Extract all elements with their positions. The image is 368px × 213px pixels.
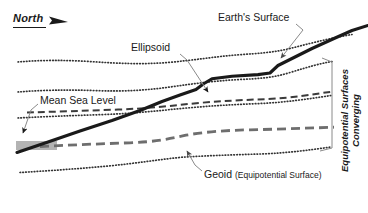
ellipsoid-label: Ellipsoid xyxy=(131,42,170,53)
earths-surface-label: Earth's Surface xyxy=(218,12,289,23)
geoid-label: Geoid xyxy=(204,168,232,180)
converging-label-line1: Equipotential Surfaces xyxy=(339,69,350,172)
geoid-label-group: Geoid(Equipotential Surface) xyxy=(204,165,322,182)
geoid-parenthetical: (Equipotential Surface) xyxy=(235,170,321,180)
mean-sea-level-label: Mean Sea Level xyxy=(40,95,116,106)
north-label: North xyxy=(13,13,43,25)
converging-bracket xyxy=(320,58,332,151)
north-underline xyxy=(13,27,46,28)
converging-label-group: Equipotential Surfaces Converging xyxy=(339,69,361,172)
north-arrow-icon xyxy=(49,17,68,25)
mean-sea-level-leader xyxy=(23,104,38,133)
geoid-ellipsoid-diagram: North Earth's Surface Ellipsoid Mean Sea… xyxy=(0,0,368,213)
geoid-leader xyxy=(187,151,202,171)
converging-label-line2: Converging xyxy=(350,69,361,172)
earths-surface-leader xyxy=(281,24,303,58)
ellipsoid-leader xyxy=(180,54,208,92)
